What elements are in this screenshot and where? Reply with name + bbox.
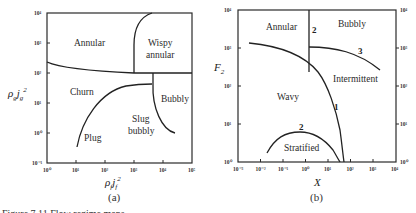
panel-a-xtick-label: 10⁴: [159, 167, 167, 173]
panel-b-ytick-label: 10⁰: [224, 159, 233, 165]
panel-b-plot-frame: [238, 10, 396, 162]
panel-b-right-ytick-label: 10³: [400, 45, 408, 51]
region-annular-label: Annular: [74, 38, 106, 48]
panel-b-curve-label-2: 2: [299, 122, 304, 132]
panel-a-ytick-label: 10¹: [34, 100, 42, 106]
panel-b-xtick-label: 10⁰: [302, 166, 311, 172]
panel-b-right-ytick-label: 10⁴: [400, 7, 408, 13]
panel-b-right-ytick-label: 10²: [400, 83, 408, 89]
panel-a-x-ticks: 10⁰ 10¹ 10² 10³ 10⁴ 10⁵: [43, 160, 196, 173]
region-bubbly-label: Bubbly: [161, 94, 189, 104]
panel-b-label: (b): [310, 191, 323, 204]
panel-a-ytick-label: 10⁻¹: [32, 160, 43, 166]
region-wispy-annular-label: annular: [146, 50, 175, 60]
panel-b-curve-label-1: 1: [334, 102, 339, 112]
region-churn-label: Churn: [70, 87, 94, 97]
panel-b-x-axis-label: X: [313, 176, 322, 188]
panel-a-ytick-label: 10⁰: [34, 130, 43, 136]
region-plug-label: Plug: [84, 133, 102, 143]
panel-b-y-axis-label: F2: [213, 61, 225, 76]
region-intermittent-label: Intermittent: [333, 74, 378, 84]
region-wispy-annular-label: Wispy: [148, 38, 173, 48]
region-annular-label: Annular: [266, 22, 298, 32]
panel-a-annular-churn-boundary: [47, 62, 192, 73]
panel-b-xtick-label: 10²: [347, 166, 355, 172]
panel-a-xtick-label: 10⁰: [43, 167, 52, 173]
panel-b-xtick-label: 10⁻²: [256, 166, 267, 172]
panel-a-xtick-label: 10¹: [72, 167, 80, 173]
panel-a-xtick-label: 10²: [101, 167, 109, 173]
panel-b-xtick-label: 10⁻¹: [278, 166, 289, 172]
panel-b-curve-3: [309, 47, 380, 70]
panel-a-xtick-label: 10⁵: [188, 167, 196, 173]
panel-a-x-axis-label: ρfjf2: [104, 175, 121, 191]
panel-a-ytick-label: 10³: [34, 40, 42, 46]
panel-a-label: (a): [108, 191, 121, 204]
panel-a-bubbly-slug-boundary: [153, 84, 175, 133]
panel-b-x-ticks: 10⁻³ 10⁻² 10⁻¹ 10⁰ 10¹ 10² 10³ 10⁴: [233, 159, 399, 172]
panel-a-xtick-label: 10³: [130, 167, 138, 173]
panel-b-xtick-label: 10⁻³: [233, 166, 244, 172]
panel-b-ytick-label: 10²: [224, 83, 232, 89]
panel-b-xtick-label: 10¹: [324, 166, 332, 172]
panel-b-xtick-label: 10⁴: [391, 166, 399, 172]
panel-a-ytick-label: 10⁴: [34, 10, 42, 16]
panel-a-ytick-label: 10²: [34, 70, 42, 76]
panel-b-curve-label-2: 2: [312, 25, 317, 35]
figure-canvas: 10⁴ 10³ 10² 10¹ 10⁰ 10⁻¹ 10⁰ 10¹ 10² 10³…: [0, 0, 416, 213]
figure-caption: Figure 7.11 Flow regime maps ...: [2, 208, 135, 213]
panel-b-right-ytick-label: 10¹: [400, 121, 408, 127]
region-stratified-label: Stratified: [284, 143, 320, 153]
panel-b-ytick-label: 10¹: [224, 121, 232, 127]
panel-a-y-axis-label: ρgjg2: [7, 86, 27, 102]
panel-b-right-ytick-label: 10⁰: [400, 159, 409, 165]
region-bubbly-label: Bubbly: [338, 19, 366, 29]
panel-a: 10⁴ 10³ 10² 10¹ 10⁰ 10⁻¹ 10⁰ 10¹ 10² 10³…: [7, 10, 196, 204]
panel-b: 10⁴ 10³ 10² 10¹ 10⁰ 10⁴ 10³ 10² 10¹ 10⁰ …: [213, 7, 409, 204]
panel-b-ytick-label: 10³: [224, 45, 232, 51]
panel-b-xtick-label: 10³: [369, 166, 377, 172]
panel-b-curve-label-3: 3: [358, 46, 363, 56]
caption-text: Figure 7.11 Flow regime maps ...: [2, 208, 135, 213]
region-slug-bubbly-label: bubbly: [128, 126, 155, 136]
panel-b-ytick-label: 10⁴: [224, 7, 232, 13]
region-slug-bubbly-label: Slug: [132, 114, 150, 124]
panel-b-right-y-ticks: 10⁴ 10³ 10² 10¹ 10⁰: [396, 7, 409, 165]
region-wavy-label: Wavy: [277, 92, 299, 102]
